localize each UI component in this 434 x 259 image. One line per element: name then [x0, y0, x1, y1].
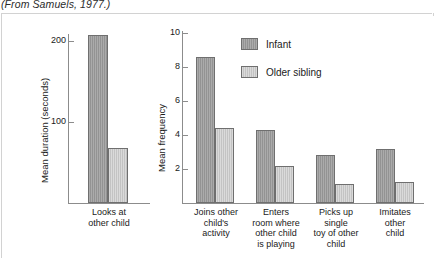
x-category-label-looks-at-other-child: Looks at other child [73, 207, 145, 228]
y-tick-label-4: 4 [158, 129, 180, 139]
cat-line-4: child [296, 239, 376, 250]
y-tick-label-200: 200 [44, 35, 66, 45]
y-tick-label-8: 8 [158, 61, 180, 71]
x-axis-line-duration [68, 203, 150, 204]
bar-infant-imitates-other-child[interactable] [376, 149, 395, 203]
bar-group-looks-at-other-child [88, 20, 132, 203]
x-category-label-imitates-other-child: Imitates other child [358, 207, 432, 239]
y-tick-8 [183, 67, 188, 68]
y-axis-title-duration: Mean duration (seconds) [39, 78, 50, 183]
bar-group-picks-up-single-toy-of-other-child [316, 20, 356, 203]
x-axis-line-frequency [182, 203, 424, 204]
bar-infant-enters-room-where-other-child-is-playing[interactable] [256, 130, 275, 203]
y-axis-line-duration [68, 34, 69, 203]
chart-panel-duration: Mean duration (seconds) 200 100 Looks at… [0, 20, 160, 259]
bar-sibling-looks-at-other-child[interactable] [108, 148, 128, 203]
figure-source-caption: (From Samuels, 1977.) [1, 0, 110, 10]
y-tick-label-2: 2 [158, 163, 180, 173]
y-axis-line-frequency [182, 31, 183, 203]
cat-line-3: child [358, 228, 432, 239]
bar-infant-picks-up-single-toy-of-other-child[interactable] [316, 155, 335, 203]
bar-sibling-joins-other-childs-activity[interactable] [215, 128, 234, 203]
y-tick-4 [183, 135, 188, 136]
bar-infant-looks-at-other-child[interactable] [88, 35, 108, 203]
bar-group-enters-room-where-other-child-is-playing [256, 20, 296, 203]
y-tick-6 [183, 101, 188, 102]
y-tick-200 [69, 41, 74, 42]
cat-line-2: other child [73, 218, 145, 229]
y-tick-10 [183, 33, 188, 34]
cat-line-1: Looks at [73, 207, 145, 218]
bar-sibling-imitates-other-child[interactable] [395, 182, 414, 203]
cat-line-1: Imitates [358, 207, 432, 218]
y-tick-label-6: 6 [158, 95, 180, 105]
cat-line-2: other [358, 218, 432, 229]
bar-infant-joins-other-childs-activity[interactable] [196, 57, 215, 203]
bar-sibling-enters-room-where-other-child-is-playing[interactable] [275, 166, 294, 203]
bar-group-imitates-other-child [376, 20, 416, 203]
bar-group-joins-other-childs-activity [196, 20, 236, 203]
y-tick-label-10: 10 [158, 27, 180, 37]
y-tick-2 [183, 169, 188, 170]
bar-sibling-picks-up-single-toy-of-other-child[interactable] [335, 184, 354, 203]
y-tick-label-100: 100 [44, 116, 66, 126]
chart-panel-frequency: Mean frequency 10 8 6 4 2 Infant Older s… [140, 20, 434, 259]
y-tick-100 [69, 122, 74, 123]
